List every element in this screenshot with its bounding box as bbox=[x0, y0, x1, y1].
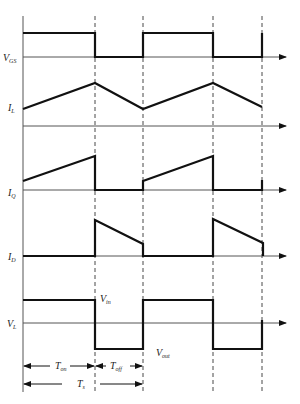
trace-vgs bbox=[23, 33, 286, 57]
label-vout: Vout bbox=[156, 347, 170, 359]
label-vin: Vin bbox=[100, 293, 111, 305]
trace-vl bbox=[23, 300, 286, 349]
buck-converter-waveform-diagram: VGS IL IQ ID VL Vin Vout Ton Toff Ts bbox=[0, 0, 300, 404]
ton-dimension: Ton bbox=[24, 360, 94, 372]
label-vl: VL bbox=[7, 318, 17, 330]
label-il: IL bbox=[7, 102, 15, 114]
label-iq: IQ bbox=[7, 187, 16, 199]
label-toff: Toff bbox=[110, 360, 123, 372]
toff-dimension: Toff bbox=[96, 360, 142, 372]
label-ts: Ts bbox=[77, 378, 86, 390]
label-ton: Ton bbox=[55, 360, 67, 372]
trace-il bbox=[23, 83, 286, 126]
trace-iq bbox=[23, 156, 286, 190]
label-vgs: VGS bbox=[3, 52, 16, 64]
period-markers bbox=[95, 16, 262, 392]
ts-dimension: Ts bbox=[24, 378, 142, 390]
trace-id bbox=[23, 219, 286, 256]
label-id: ID bbox=[7, 251, 16, 263]
